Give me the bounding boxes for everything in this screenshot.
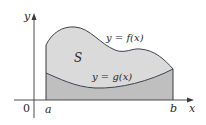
a-label: a — [45, 104, 52, 115]
area-between-curves-figure: y x 0 a b S y = f(x) y = g(x) — [0, 0, 206, 125]
x-axis-label: x — [189, 103, 195, 114]
y-axis-label: y — [24, 11, 30, 22]
b-label: b — [170, 103, 177, 114]
region-s-label: S — [74, 52, 82, 64]
origin-label: 0 — [23, 103, 30, 114]
f-curve-label: y = f(x) — [106, 33, 144, 43]
y-axis-arrow-icon — [32, 13, 37, 20]
g-curve-label: y = g(x) — [92, 72, 132, 82]
